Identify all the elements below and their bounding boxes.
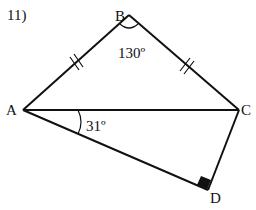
angle-arc-a — [78, 110, 81, 134]
vertex-label-d: D — [210, 191, 221, 206]
angle-arc-b — [120, 24, 138, 28]
vertex-label-a: A — [6, 103, 17, 118]
geometry-diagram: 11) B A C D 130º 31º — [0, 0, 256, 210]
angle-label-a: 31º — [86, 119, 106, 134]
side-cd — [208, 110, 239, 190]
vertex-label-c: C — [241, 103, 251, 118]
vertex-label-b: B — [115, 9, 125, 24]
problem-number: 11) — [7, 8, 26, 23]
side-bc — [129, 15, 239, 110]
angle-label-b: 130º — [118, 46, 145, 61]
side-ab — [23, 15, 129, 110]
side-ad — [23, 110, 208, 190]
diagram-lines — [0, 0, 256, 210]
